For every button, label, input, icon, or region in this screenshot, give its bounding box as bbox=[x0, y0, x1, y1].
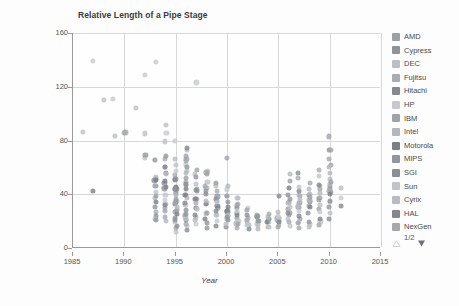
data-point bbox=[255, 214, 260, 219]
data-point bbox=[296, 221, 301, 226]
pager-down-icon[interactable] bbox=[417, 234, 426, 243]
legend-item-fujitsu[interactable]: Fujitsu bbox=[392, 71, 458, 85]
x-tick-label: 2005 bbox=[257, 258, 297, 266]
data-point bbox=[306, 219, 311, 224]
data-point bbox=[90, 58, 95, 63]
data-point bbox=[277, 194, 282, 199]
data-point bbox=[163, 192, 168, 197]
data-point bbox=[327, 217, 332, 222]
data-point bbox=[306, 187, 311, 192]
data-point bbox=[163, 179, 168, 184]
legend-item-cypress[interactable]: Cypress bbox=[392, 44, 458, 58]
legend-item-label: NexGen bbox=[404, 223, 432, 231]
data-point bbox=[317, 195, 322, 200]
x-tick-mark bbox=[175, 252, 176, 256]
x-axis-ticks: 1985199019952000200520102015 bbox=[72, 252, 380, 266]
legend-item-amd[interactable]: AMD bbox=[392, 30, 458, 44]
data-point bbox=[153, 218, 158, 223]
chart-root: Relative Length of a Pipe Stage FO4 per … bbox=[0, 0, 459, 306]
plot-area[interactable] bbox=[72, 33, 380, 248]
data-point bbox=[317, 168, 322, 173]
data-point bbox=[173, 216, 178, 221]
data-point bbox=[339, 195, 344, 200]
pager-up-icon[interactable] bbox=[392, 234, 401, 243]
data-point bbox=[193, 181, 198, 186]
data-point bbox=[163, 154, 168, 159]
data-point bbox=[80, 129, 85, 134]
data-point bbox=[296, 175, 301, 180]
data-point bbox=[194, 207, 199, 212]
legend-item-ibm[interactable]: IBM bbox=[392, 112, 458, 126]
data-point bbox=[317, 222, 322, 227]
y-tick-mark bbox=[68, 33, 72, 34]
data-point bbox=[236, 195, 241, 200]
legend-item-sun[interactable]: Sun bbox=[392, 180, 458, 194]
legend-item-label: Cypress bbox=[404, 47, 432, 55]
legend-item-label: Cyrix bbox=[404, 196, 421, 204]
data-point bbox=[173, 162, 178, 167]
data-point bbox=[183, 153, 188, 158]
data-point bbox=[317, 174, 322, 179]
data-point bbox=[164, 219, 169, 224]
data-point bbox=[154, 193, 159, 198]
legend-swatch-icon bbox=[392, 128, 400, 136]
legend-swatch-icon bbox=[392, 114, 400, 122]
data-point bbox=[306, 211, 311, 216]
y-tick-label: 160 bbox=[38, 29, 68, 37]
legend-item-hal[interactable]: HAL bbox=[392, 207, 458, 221]
data-point bbox=[307, 195, 312, 200]
legend-swatch-icon bbox=[392, 182, 400, 190]
data-point bbox=[163, 203, 168, 208]
legend-item-hitachi[interactable]: Hitachi bbox=[392, 84, 458, 98]
legend-swatch-icon bbox=[392, 169, 400, 177]
legend-pager[interactable]: 1/2 bbox=[392, 232, 426, 244]
data-point bbox=[317, 217, 322, 222]
data-point bbox=[317, 182, 322, 187]
legend-item-motorola[interactable]: Motorola bbox=[392, 139, 458, 153]
data-point bbox=[194, 168, 199, 173]
data-point bbox=[153, 199, 158, 204]
data-point bbox=[173, 157, 178, 162]
data-point bbox=[164, 122, 169, 127]
data-point bbox=[276, 209, 281, 214]
data-point bbox=[245, 213, 250, 218]
data-point bbox=[154, 177, 159, 182]
data-point bbox=[327, 147, 332, 152]
data-point bbox=[184, 170, 189, 175]
data-point bbox=[173, 168, 178, 173]
data-point bbox=[194, 80, 199, 85]
data-point bbox=[286, 186, 291, 191]
data-point bbox=[285, 192, 290, 197]
legend-item-sgi[interactable]: SGI bbox=[392, 166, 458, 180]
data-point bbox=[225, 183, 230, 188]
legend-item-hp[interactable]: HP bbox=[392, 98, 458, 112]
data-point bbox=[255, 226, 260, 231]
data-point bbox=[163, 214, 168, 219]
legend-swatch-icon bbox=[392, 74, 400, 82]
legend-swatch-icon bbox=[392, 33, 400, 41]
data-point bbox=[326, 157, 331, 162]
data-point bbox=[214, 208, 219, 213]
data-point bbox=[338, 203, 343, 208]
data-point bbox=[203, 217, 208, 222]
legend-item-mips[interactable]: MIPS bbox=[392, 152, 458, 166]
x-axis-label-text: Year bbox=[201, 276, 217, 285]
data-point bbox=[266, 224, 271, 229]
legend-item-label: Sun bbox=[404, 183, 417, 191]
data-point bbox=[327, 171, 332, 176]
data-point bbox=[287, 179, 292, 184]
legend-item-dec[interactable]: DEC bbox=[392, 57, 458, 71]
data-point bbox=[184, 187, 189, 192]
x-tick-mark bbox=[226, 252, 227, 256]
data-point bbox=[318, 209, 323, 214]
legend-item-label: Motorola bbox=[404, 142, 433, 150]
data-point bbox=[225, 155, 230, 160]
legend-item-intel[interactable]: Intel bbox=[392, 125, 458, 139]
data-point bbox=[133, 105, 138, 110]
data-point bbox=[193, 218, 198, 223]
data-point bbox=[123, 130, 128, 135]
data-point bbox=[307, 224, 312, 229]
legend-item-cyrix[interactable]: Cyrix bbox=[392, 193, 458, 207]
data-point bbox=[318, 203, 323, 208]
y-tick-label: 0 bbox=[38, 244, 68, 252]
